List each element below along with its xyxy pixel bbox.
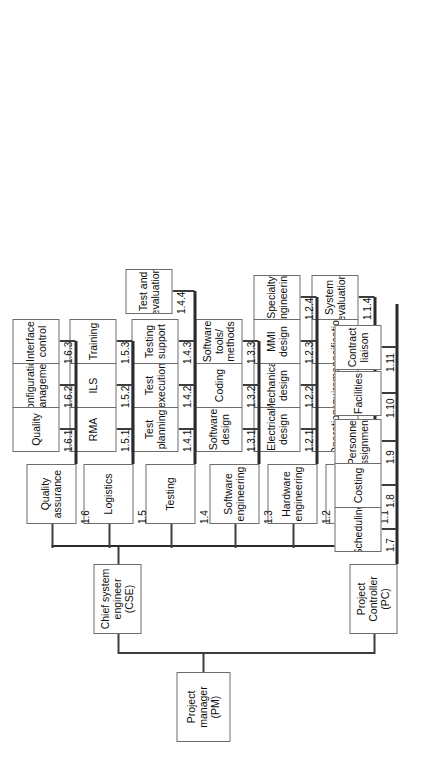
node-label-line2: assignments bbox=[358, 419, 370, 464]
node-costing[interactable]: Costing bbox=[334, 463, 381, 508]
node-label-line1: Personnel bbox=[346, 419, 358, 464]
node-label-line1: Scheduling bbox=[352, 507, 364, 552]
wbs-code-1-5-1: 1.5.1 bbox=[120, 430, 130, 452]
node-quality-assurance[interactable]: Quality assurance bbox=[26, 464, 76, 524]
node-label-line1: ILS bbox=[87, 378, 99, 394]
node-interface-control[interactable]: Interface control bbox=[12, 319, 59, 364]
connector-cse-out bbox=[117, 546, 119, 564]
wbs-chart-screen: Project manager (PM) Chief system engine… bbox=[0, 0, 421, 760]
node-label-line2: evaluation bbox=[149, 269, 161, 314]
node-label-line1: Test and bbox=[137, 269, 149, 314]
connector-cse-children-spine bbox=[51, 545, 351, 547]
connector-root-spine bbox=[118, 652, 374, 654]
connector-1-8-drop bbox=[381, 484, 396, 486]
node-label-line2: design bbox=[277, 326, 289, 357]
node-software-engineering[interactable]: Software engineering bbox=[209, 464, 259, 524]
node-label-line2: engineering bbox=[292, 467, 304, 522]
node-label-line1: Project bbox=[185, 675, 197, 739]
wbs-code-1-10: 1.10 bbox=[385, 399, 395, 418]
node-test-planning[interactable]: Test planning bbox=[131, 407, 178, 452]
connector-pc-stem bbox=[373, 634, 375, 654]
node-label-line1: Software bbox=[222, 467, 234, 522]
connector-to-1-4 bbox=[170, 524, 172, 548]
connector-to-1-3 bbox=[234, 524, 236, 548]
node-label-line2: design bbox=[277, 408, 289, 451]
node-label-line2: Controller (PC) bbox=[367, 567, 391, 631]
node-chief-system-engineer[interactable]: Chief system engineer (CSE) bbox=[93, 564, 141, 634]
wbs-code-1-3-2: 1.3.2 bbox=[246, 386, 256, 408]
node-label-line1: Interface bbox=[24, 321, 36, 362]
node-label-line2: engineer (CSE) bbox=[111, 567, 135, 631]
node-facilities[interactable]: Facilities bbox=[334, 371, 381, 416]
node-label-line1: Logistics bbox=[102, 474, 114, 515]
node-label-line1: Testing bbox=[164, 477, 176, 510]
wbs-code-1-6-3: 1.6.3 bbox=[63, 342, 73, 364]
node-contract-liaison[interactable]: Contract liaison bbox=[334, 325, 381, 370]
wbs-code-1-3-1: 1.3.1 bbox=[246, 430, 256, 452]
wbs-code-1-1-4: 1.1.4 bbox=[362, 298, 372, 320]
node-label-line1: Contract bbox=[346, 328, 358, 368]
connector-1-7-drop bbox=[381, 528, 396, 530]
node-testing-support[interactable]: Testing support bbox=[131, 319, 178, 364]
node-logistics[interactable]: Logistics bbox=[83, 464, 133, 524]
node-label-line2: control bbox=[36, 321, 48, 362]
node-label-line1: Mechanical bbox=[265, 363, 277, 408]
node-label-line1: MMI bbox=[265, 326, 277, 357]
connector-1-3-bus bbox=[257, 341, 259, 464]
node-quality[interactable]: Quality bbox=[12, 407, 59, 452]
wbs-code-1-4-3: 1.4.3 bbox=[182, 342, 192, 364]
connector-1-4-bus bbox=[193, 291, 195, 464]
node-test-and-evaluation[interactable]: Test and evaluation bbox=[125, 269, 172, 314]
wbs-code-1-3: 1.3 bbox=[263, 510, 273, 524]
node-label-line1: Coding bbox=[213, 369, 225, 402]
node-hardware-engineering[interactable]: Hardware engineering bbox=[267, 464, 317, 524]
node-label-line2: planning bbox=[155, 410, 167, 450]
node-label-line1: Configuration bbox=[24, 363, 36, 408]
node-label-line1: System bbox=[323, 275, 335, 320]
connector-pc-bus bbox=[395, 304, 397, 564]
node-label-line1: Electrical bbox=[265, 408, 277, 451]
node-configuration-management[interactable]: Configuration management bbox=[12, 363, 59, 408]
wbs-code-1-5-2: 1.5.2 bbox=[120, 386, 130, 408]
node-label-line1: Project bbox=[355, 567, 367, 631]
node-label-line1: Software bbox=[207, 409, 219, 450]
connector-1-11-drop bbox=[381, 346, 396, 348]
node-scheduling[interactable]: Scheduling bbox=[334, 507, 381, 552]
node-specialty-engineering[interactable]: Specialty engineering bbox=[253, 275, 300, 320]
node-label-line2: assurance bbox=[51, 470, 63, 518]
node-label-line2: engineering bbox=[234, 467, 246, 522]
node-personnel-assignments[interactable]: Personnel assignments bbox=[334, 419, 381, 464]
node-project-controller[interactable]: Project Controller (PC) bbox=[349, 564, 397, 634]
connector-cse-stem bbox=[117, 634, 119, 654]
wbs-code-1-4-1: 1.4.1 bbox=[182, 430, 192, 452]
node-software-design[interactable]: Software design bbox=[195, 407, 242, 452]
node-label-line1: Hardware bbox=[280, 467, 292, 522]
wbs-code-1-2-3: 1.2.3 bbox=[304, 342, 314, 364]
node-label-line1: Test bbox=[143, 363, 155, 408]
node-testing[interactable]: Testing bbox=[145, 464, 195, 524]
node-label-line2: execution bbox=[155, 363, 167, 408]
node-label-line2: evaluation bbox=[335, 275, 347, 320]
node-test-execution[interactable]: Test execution bbox=[131, 363, 178, 408]
wbs-code-1-5-3: 1.5.3 bbox=[120, 342, 130, 364]
wbs-code-1-3-3: 1.3.3 bbox=[246, 342, 256, 364]
wbs-code-1-8: 1.8 bbox=[385, 494, 395, 508]
node-label-line1: Specialty bbox=[265, 275, 277, 320]
node-coding[interactable]: Coding bbox=[195, 363, 242, 408]
connector-1-9-drop bbox=[381, 440, 396, 442]
connector-1-5-bus bbox=[131, 341, 133, 464]
node-project-manager[interactable]: Project manager (PM) bbox=[176, 672, 230, 742]
wbs-code-1-6: 1.6 bbox=[80, 510, 90, 524]
wbs-code-1-2-2: 1.2.2 bbox=[304, 386, 314, 408]
connector-1-2-bus bbox=[315, 297, 317, 464]
node-software-tools-methods[interactable]: Software tools/ methods bbox=[195, 319, 242, 364]
wbs-code-1-5: 1.5 bbox=[137, 510, 147, 524]
node-label-line2: tools/ bbox=[213, 321, 225, 362]
node-label-line2: design bbox=[277, 363, 289, 408]
wbs-code-1-7: 1.7 bbox=[385, 538, 395, 552]
wbs-code-1-4-4: 1.4.4 bbox=[176, 292, 186, 314]
node-label-line2: design bbox=[219, 409, 231, 450]
wbs-code-1-2-4: 1.2.4 bbox=[304, 298, 314, 320]
node-label-line2: support bbox=[155, 324, 167, 359]
connector-to-1-6 bbox=[51, 524, 53, 548]
